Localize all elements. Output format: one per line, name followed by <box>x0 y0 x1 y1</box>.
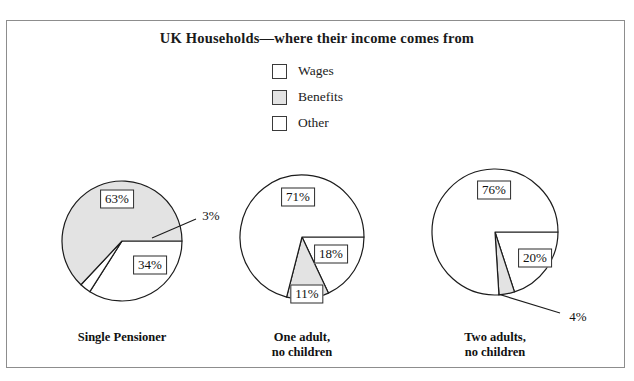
leader-line-4pct <box>498 294 560 313</box>
pie-chart-two-adults <box>0 0 634 381</box>
slice-label-4: 4% <box>569 309 586 325</box>
slice-label-76: 76% <box>477 181 511 200</box>
chart-figure: UK Households—where their income comes f… <box>0 0 634 381</box>
category-label-two-adults-line1: Two adults, <box>415 330 575 345</box>
category-label-two-adults-line2: no children <box>415 345 575 360</box>
slice-label-20: 20% <box>518 249 552 268</box>
